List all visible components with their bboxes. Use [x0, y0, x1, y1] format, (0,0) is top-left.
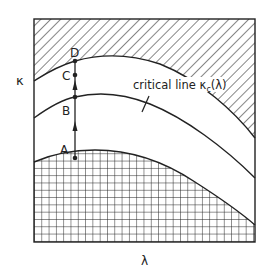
point-label-b: B	[62, 104, 70, 118]
point-label-c: C	[62, 69, 70, 83]
y-axis-label: κ	[16, 73, 24, 88]
arrow-up-icon	[73, 80, 78, 90]
point-label-d: D	[70, 46, 79, 60]
phase-diagram: A B C D critical line κc(λ) κ λ	[0, 0, 271, 278]
lower-crosshatched-region	[34, 150, 255, 242]
x-axis-label: λ	[141, 254, 148, 268]
point-label-a: A	[60, 143, 69, 157]
arrow-up-icon	[73, 121, 78, 131]
point-b	[73, 95, 78, 100]
critical-line-leader	[142, 96, 149, 112]
critical-line-label: critical line κc(λ)	[133, 78, 227, 94]
point-a	[73, 156, 78, 161]
point-c	[73, 73, 78, 78]
